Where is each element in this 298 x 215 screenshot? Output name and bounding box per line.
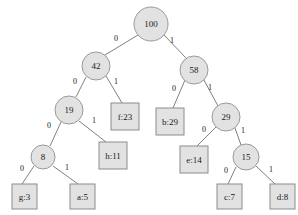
node-label-n8: 8 bbox=[41, 152, 46, 162]
edge-label-n8-g3: 0 bbox=[20, 164, 24, 173]
edge-label-n58-n29: 1 bbox=[208, 83, 212, 92]
tree-canvas: f:23b:29h:11e:14g:3a:5c:7d:8 10042581929… bbox=[0, 0, 298, 215]
leaf-label-h11: h:11 bbox=[105, 151, 121, 161]
edge-label-n42-f23: 1 bbox=[114, 77, 118, 86]
tree-edge-n42-n19 bbox=[76, 77, 86, 97]
edge-label-n58-b29: 0 bbox=[172, 84, 176, 93]
node-label-root: 100 bbox=[144, 19, 158, 29]
leaf-label-b29: b:29 bbox=[162, 117, 179, 127]
edge-label-root-n58: 1 bbox=[170, 36, 174, 45]
leaf-label-d8: d:8 bbox=[277, 192, 289, 202]
leaf-label-c7: c:7 bbox=[224, 192, 235, 202]
edge-label-n42-n19: 0 bbox=[73, 77, 77, 86]
node-label-n15: 15 bbox=[242, 152, 252, 162]
edge-label-n29-n15: 1 bbox=[241, 126, 245, 135]
edge-label-n29-e14: 0 bbox=[202, 125, 206, 134]
huffman-tree-diagram: f:23b:29h:11e:14g:3a:5c:7d:8 10042581929… bbox=[0, 0, 298, 215]
edge-label-n15-c7: 0 bbox=[224, 166, 228, 175]
tree-edge-n15-c7 bbox=[228, 167, 236, 184]
tree-edge-n19-n8 bbox=[50, 122, 61, 146]
leaf-label-f23: f:23 bbox=[118, 112, 133, 122]
node-label-n29: 29 bbox=[222, 112, 232, 122]
node-label-n42: 42 bbox=[92, 61, 101, 71]
edge-label-n15-d8: 1 bbox=[269, 165, 273, 174]
nodes-group: 10042581929815 bbox=[31, 7, 259, 170]
leaf-label-a5: a:5 bbox=[77, 192, 88, 202]
edge-label-n8-a5: 1 bbox=[65, 163, 69, 172]
edge-label-root-n42: 0 bbox=[114, 34, 118, 43]
tree-edge-root-n42 bbox=[105, 35, 138, 55]
edge-label-n19-n8: 0 bbox=[47, 121, 51, 130]
tree-edge-root-n58 bbox=[164, 35, 186, 58]
node-label-n58: 58 bbox=[190, 65, 200, 75]
tree-edge-n29-e14 bbox=[197, 127, 216, 146]
node-label-n19: 19 bbox=[65, 105, 75, 115]
leaf-label-e14: e:14 bbox=[186, 155, 202, 165]
edge-label-n19-h11: 1 bbox=[92, 116, 96, 125]
leaf-label-g3: g:3 bbox=[19, 192, 31, 202]
